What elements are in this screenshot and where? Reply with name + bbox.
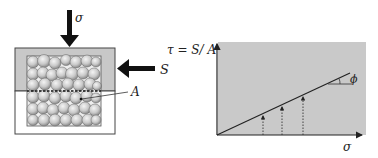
shear-strength-chart bbox=[217, 42, 366, 135]
shear-area-label: A bbox=[131, 86, 140, 98]
y-axis-label: τ = S/ A bbox=[167, 44, 216, 56]
diagram-canvas bbox=[0, 0, 378, 158]
shear-box bbox=[15, 48, 115, 134]
area-leader-dot bbox=[80, 98, 83, 101]
shear-force-label: S bbox=[160, 63, 169, 76]
normal-stress-label: σ bbox=[75, 12, 83, 24]
friction-angle-label: ϕ bbox=[350, 74, 358, 85]
x-axis-label: σ bbox=[343, 141, 351, 153]
chart-background bbox=[218, 42, 366, 135]
shear-force-arrow bbox=[117, 59, 155, 78]
